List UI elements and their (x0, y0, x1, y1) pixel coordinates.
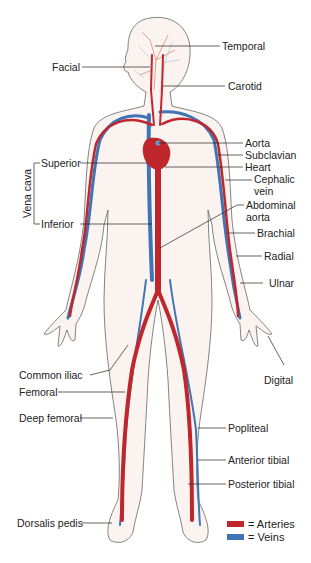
legend-item-arteries: = Arteries (227, 517, 295, 530)
label-cephalic-vein-1: Cephalic (254, 173, 295, 185)
arteries-swatch (227, 521, 244, 527)
legend-label-arteries: = Arteries (248, 518, 295, 530)
label-digital: Digital (264, 374, 293, 386)
legend: = Arteries = Veins (227, 517, 295, 543)
legend-item-veins: = Veins (227, 530, 295, 543)
label-abdominal-aorta-2: aorta (246, 211, 270, 223)
label-aorta: Aorta (245, 137, 270, 149)
label-femoral: Femoral (19, 386, 58, 398)
label-subclavian: Subclavian (245, 149, 296, 161)
label-anterior-tibial: Anterior tibial (228, 454, 289, 466)
label-common-iliac: Common iliac (19, 369, 83, 381)
label-superior-vena-cava: Superior (41, 157, 81, 169)
label-deep-femoral: Deep femoral (19, 412, 82, 424)
label-facial: Facial (52, 61, 80, 73)
label-carotid: Carotid (228, 80, 262, 92)
label-brachial: Brachial (257, 227, 295, 239)
label-ulnar: Ulnar (269, 277, 294, 289)
label-dorsalis-pedis: Dorsalis pedis (17, 517, 83, 529)
label-popliteal: Popliteal (228, 422, 268, 434)
label-heart: Heart (245, 161, 271, 173)
legend-label-veins: = Veins (248, 531, 284, 543)
label-vena-cava: Vena cava (21, 169, 33, 218)
label-abdominal-aorta-1: Abdominal (246, 199, 296, 211)
label-temporal: Temporal (222, 40, 265, 52)
label-inferior-vena-cava: Inferior (41, 218, 74, 230)
veins-swatch (227, 534, 244, 540)
label-cephalic-vein-2: vein (254, 185, 273, 197)
label-posterior-tibial: Posterior tibial (228, 478, 295, 490)
label-radial: Radial (264, 250, 294, 262)
